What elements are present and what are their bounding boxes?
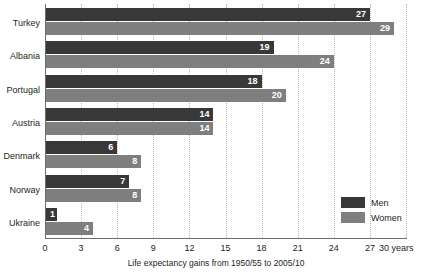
- category-label-albania: Albania: [0, 51, 40, 61]
- bar-value-label: 6: [45, 141, 117, 154]
- category-label-denmark: Denmark: [0, 151, 40, 161]
- chart-legend: Men Women: [341, 196, 402, 226]
- bar-row: 18: [45, 75, 406, 88]
- legend-label-women: Women: [371, 213, 402, 223]
- bar-value-label: 14: [45, 108, 213, 121]
- x-tick-3: 3: [79, 243, 84, 253]
- x-tick-12: 12: [184, 243, 194, 253]
- legend-swatch-women: [341, 212, 365, 223]
- bar-value-label: 14: [45, 122, 213, 135]
- bar-row: 24: [45, 55, 406, 68]
- x-tick-24: 24: [329, 243, 339, 253]
- bar-chart: 2729192418201414687814 TurkeyAlbaniaPort…: [0, 0, 432, 273]
- bar-row: 20: [45, 89, 406, 102]
- x-axis-line: [45, 238, 407, 239]
- x-tick-6: 6: [115, 243, 120, 253]
- x-tick-27: 27: [365, 243, 375, 253]
- bar-value-label: 20: [45, 89, 286, 102]
- legend-swatch-men: [341, 197, 365, 208]
- x-tick-18: 18: [257, 243, 267, 253]
- bar-row: 29: [45, 22, 406, 35]
- y-axis-line: [45, 4, 46, 238]
- x-tick-15: 15: [220, 243, 230, 253]
- bar-value-label: 1: [45, 208, 59, 221]
- x-tick-0: 0: [42, 243, 47, 253]
- bar-row: 27: [45, 8, 406, 21]
- bar-value-label: 8: [45, 189, 141, 202]
- bar-group: 1414: [45, 108, 406, 136]
- x-axis-title: Life expectancy gains from 1950/55 to 20…: [0, 258, 432, 268]
- bar-value-label: 7: [45, 175, 129, 188]
- bar-group: 1924: [45, 41, 406, 69]
- bar-value-label: 19: [45, 41, 274, 54]
- bar-value-label: 8: [45, 155, 141, 168]
- category-label-ukraine: Ukraine: [0, 218, 40, 228]
- bar-group: 1820: [45, 75, 406, 103]
- legend-item-men: Men: [341, 196, 402, 209]
- bar-row: 14: [45, 122, 406, 135]
- category-label-portugal: Portugal: [0, 85, 40, 95]
- bar-value-label: 18: [45, 75, 262, 88]
- category-label-austria: Austria: [0, 118, 40, 128]
- bar-row: 8: [45, 155, 406, 168]
- gridline-30: [406, 4, 407, 238]
- bar-group: 2729: [45, 8, 406, 36]
- bar-group: 68: [45, 141, 406, 169]
- legend-label-men: Men: [371, 198, 389, 208]
- bar-row: 6: [45, 141, 406, 154]
- x-tick-30: 30 years: [379, 243, 414, 253]
- category-label-norway: Norway: [0, 185, 40, 195]
- bar-value-label: 4: [45, 222, 93, 235]
- bar-value-label: 24: [45, 55, 334, 68]
- bar-value-label: 27: [45, 8, 370, 21]
- bar-row: 7: [45, 175, 406, 188]
- bar-value-label: 29: [45, 22, 394, 35]
- legend-item-women: Women: [341, 211, 402, 224]
- bar-row: 14: [45, 108, 406, 121]
- category-label-turkey: Turkey: [0, 18, 40, 28]
- x-tick-9: 9: [151, 243, 156, 253]
- x-tick-21: 21: [293, 243, 303, 253]
- bar-row: 19: [45, 41, 406, 54]
